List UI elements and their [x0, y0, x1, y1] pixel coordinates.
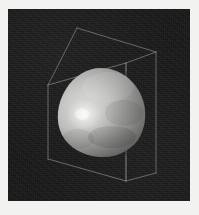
render-viewport[interactable] [8, 9, 190, 201]
bottom-shading-overlay [48, 59, 158, 169]
box-edge-front-bottom [48, 159, 126, 181]
box-edge-top-left-depth [48, 28, 77, 85]
box-edge-back-top [77, 28, 156, 52]
figure-root [0, 0, 199, 215]
isosurface-blob[interactable] [48, 59, 158, 169]
box-edge-bottom-right-depth [126, 173, 156, 181]
3d-scene [8, 9, 190, 201]
specular-core [75, 108, 89, 120]
box-edge-top-right-depth [126, 52, 156, 63]
